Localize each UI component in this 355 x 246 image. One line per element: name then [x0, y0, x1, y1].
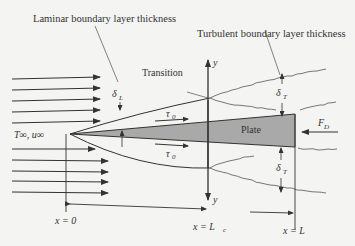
tau0-upper-subscript: 0	[172, 113, 176, 121]
plate-label: Plate	[241, 124, 262, 135]
delta-T-lower-subscript: T	[283, 168, 288, 176]
turbulent-boundary-upper	[210, 69, 326, 98]
transition-label: Transition	[142, 67, 183, 78]
xL-label: x = L	[282, 225, 305, 236]
xLc-subscript: c	[223, 226, 227, 234]
laminar-leader	[95, 26, 118, 82]
tau0-upper-symbol: τ	[166, 108, 170, 119]
free-stream-arrows-upper	[12, 77, 100, 123]
tau0-lower-subscript: 0	[172, 153, 176, 161]
turbulent-boundary-lower	[210, 168, 326, 193]
dim-to-L	[250, 212, 293, 213]
free-stream-arrows-lower	[12, 149, 108, 193]
boundary-layer-diagram: Laminar boundary layer thickness Turbule…	[0, 0, 355, 246]
tau0-lower-arrow	[155, 144, 188, 146]
y-axis-top-label: y	[212, 57, 218, 68]
transition-leader	[187, 92, 208, 98]
turbulent-label: Turbulent boundary layer thickness	[197, 28, 346, 39]
laminar-label: Laminar boundary layer thickness	[33, 13, 176, 24]
turbulent-boundary-upper-right	[300, 102, 336, 110]
drag-force-subscript: D	[323, 123, 329, 131]
delta-T-upper-symbol: δ	[276, 87, 281, 98]
x0-label: x = 0	[54, 215, 76, 226]
delta-L-symbol: δ	[112, 88, 117, 99]
delta-L-subscript: L	[118, 94, 123, 102]
tau0-lower-symbol: τ	[166, 148, 170, 159]
xLc-label: x = L	[192, 221, 215, 232]
turbulent-boundary-lower-right	[298, 148, 337, 150]
turbulent-boundary-lower-inner	[210, 156, 254, 168]
delta-T-upper-subscript: T	[283, 93, 288, 101]
delta-T-lower-symbol: δ	[276, 162, 281, 173]
diagram-svg: Laminar boundary layer thickness Turbule…	[0, 0, 355, 246]
dim-0-to-Lc	[70, 204, 206, 209]
free-stream-label: T∞, u∞	[14, 129, 44, 140]
turbulent-boundary-upper-inner	[210, 98, 276, 110]
y-axis-bottom-label: y	[212, 194, 218, 205]
